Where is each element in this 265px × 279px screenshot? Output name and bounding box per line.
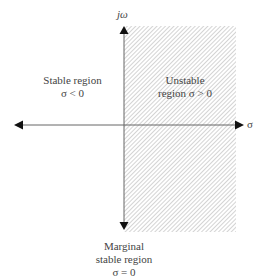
unstable-region-title: Unstable [150,74,220,87]
marginal-region-label: Marginal stable region σ = 0 [89,240,159,279]
jw-axis-label: jω [117,8,128,20]
stable-region-label: Stable region σ < 0 [40,74,105,100]
unstable-region-label: Unstable region σ > 0 [150,74,220,100]
unstable-region-condition: region σ > 0 [150,87,220,100]
s-plane-diagram: jω σ Stable region σ < 0 Unstable region… [0,0,265,279]
unstable-region-hatch [124,26,236,232]
sigma-axis-label: σ [247,118,253,130]
marginal-region-condition: σ = 0 [89,266,159,279]
sigma-axis-left-arrow-icon [14,121,23,130]
sigma-axis-right-arrow-icon [235,121,244,130]
stable-region-condition: σ < 0 [40,87,105,100]
stable-region-title: Stable region [40,74,105,87]
marginal-region-subtitle: stable region [89,253,159,266]
s-plane-graphic [0,0,265,279]
marginal-region-title: Marginal [89,240,159,253]
